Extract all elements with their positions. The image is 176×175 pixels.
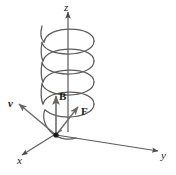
helix-trajectory — [41, 26, 94, 139]
vector-v — [19, 104, 56, 135]
vector-label-B: B — [59, 91, 66, 102]
vector-label-v: v — [8, 98, 13, 109]
axis-label-x: x — [17, 155, 22, 166]
figure-canvas: z y x B F v — [0, 0, 176, 175]
helix-lead-in — [41, 26, 44, 42]
vector-diagram-svg — [0, 0, 176, 175]
vector-label-F: F — [81, 106, 88, 117]
y-axis — [56, 135, 158, 151]
vector-F — [56, 107, 78, 135]
axis-label-z: z — [64, 2, 68, 13]
helix-turn-1-back — [44, 29, 94, 42]
origin-point — [53, 132, 58, 137]
helix-tail-out — [44, 110, 76, 139]
axis-label-y: y — [161, 150, 166, 161]
